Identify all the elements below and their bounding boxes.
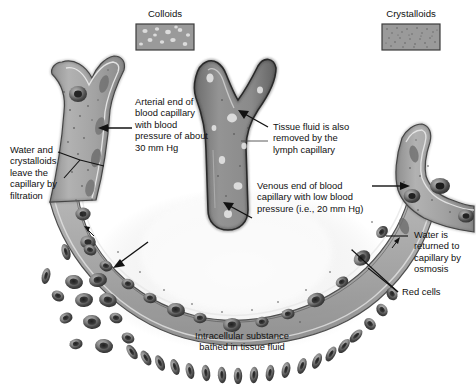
capillary-exchange-figure: Colloids Crystalloids Arterial end of bl…: [0, 0, 476, 384]
venous-end-label: Venous end of blood capillary with low b…: [257, 180, 363, 214]
crystalloids-label: Crystalloids: [374, 8, 448, 19]
arterial-end-label: Arterial end of blood capillary with blo…: [135, 96, 208, 153]
tissue-fluid-lymph-label: Tissue fluid is also removed by the lymp…: [273, 121, 349, 155]
colloids-label: Colloids: [136, 8, 194, 19]
crystalloids-swatch: [382, 24, 440, 50]
red-cells-label: Red cells: [402, 286, 441, 297]
figure-artwork: [0, 0, 476, 384]
water-crystalloids-label: Water and crystalloids leave the capilla…: [10, 144, 57, 201]
intracellular-substance-label: Intracellular substance bathed in tissue…: [168, 330, 316, 353]
colloids-swatch: [136, 24, 194, 50]
water-returned-label: Water is returned to capillary by osmosi…: [414, 229, 461, 275]
